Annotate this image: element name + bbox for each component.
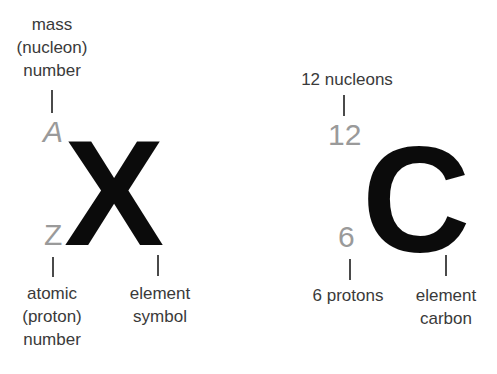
atomic-number-caption: atomic (proton) number <box>4 282 100 351</box>
leader-tick-element-carbon <box>445 255 447 276</box>
protons-caption: 6 protons <box>298 284 398 307</box>
element-symbol-caption: element symbol <box>112 282 208 328</box>
element-symbol-X: X <box>64 118 164 268</box>
mass-number-symbol-A: A <box>43 117 63 147</box>
atomic-number-symbol-Z: Z <box>44 220 62 250</box>
leader-tick-atomic-number <box>52 257 54 277</box>
leader-tick-mass-number <box>51 90 53 113</box>
mass-number-caption: mass (nucleon) number <box>4 13 100 82</box>
element-symbol-C: C <box>362 125 470 275</box>
carbon-atomic-number-6: 6 <box>338 222 355 252</box>
leader-tick-element-symbol <box>157 255 159 276</box>
leader-tick-protons <box>349 259 351 280</box>
nucleons-caption: 12 nucleons <box>286 68 408 91</box>
carbon-mass-number-12: 12 <box>328 120 361 150</box>
leader-tick-nucleons <box>343 95 345 116</box>
element-carbon-caption: element carbon <box>399 284 493 330</box>
atomic-notation-diagram: mass (nucleon) number A X Z atomic (prot… <box>0 0 497 374</box>
